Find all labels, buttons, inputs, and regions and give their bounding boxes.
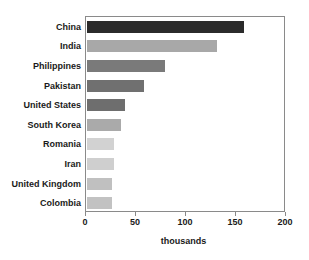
- bar-category-label: India: [60, 42, 81, 51]
- x-axis-title-text: thousands: [161, 237, 207, 246]
- bar: [87, 21, 244, 33]
- bar-row: South Korea: [86, 115, 284, 135]
- bar-row: Romania: [86, 135, 284, 155]
- x-axis-tick-label: 150: [227, 218, 242, 227]
- bar-category-label: South Korea: [27, 120, 81, 129]
- bar-row: India: [86, 37, 284, 57]
- bar-category-label: China: [56, 22, 81, 31]
- bar-row: United Kingdom: [86, 174, 284, 194]
- bar-row: China: [86, 17, 284, 37]
- bar-category-label: Colombia: [40, 199, 81, 208]
- bar: [87, 119, 121, 131]
- bar-category-label: Iran: [64, 159, 81, 168]
- bar-row: United States: [86, 95, 284, 115]
- bar-category-label: Romania: [43, 140, 81, 149]
- bar-row: Iran: [86, 154, 284, 174]
- bar-category-label: United Kingdom: [12, 179, 82, 188]
- plot-area: ChinaIndiaPhilippinesPakistanUnited Stat…: [85, 16, 285, 212]
- x-axis-tick-label: 100: [177, 218, 192, 227]
- x-axis-tick-label: 50: [130, 218, 140, 227]
- bar: [87, 158, 114, 170]
- bar-row: Pakistan: [86, 76, 284, 96]
- x-axis-tick: [185, 212, 186, 216]
- bar-chart: ChinaIndiaPhilippinesPakistanUnited Stat…: [0, 0, 309, 260]
- bar-category-label: United States: [23, 101, 81, 110]
- bar: [87, 99, 125, 111]
- bar: [87, 80, 144, 92]
- x-axis-tick: [85, 212, 86, 216]
- bar-category-label: Philippines: [33, 61, 81, 70]
- x-axis-tick: [285, 212, 286, 216]
- bar: [87, 197, 112, 209]
- x-axis-tick: [235, 212, 236, 216]
- bar: [87, 138, 114, 150]
- x-axis-tick-label: 0: [82, 218, 87, 227]
- x-axis-tick-label: 200: [277, 218, 292, 227]
- x-axis-title: thousands: [0, 237, 309, 246]
- x-axis-tick: [135, 212, 136, 216]
- bar: [87, 40, 217, 52]
- bar-category-label: Pakistan: [44, 81, 81, 90]
- bar-row: Philippines: [86, 56, 284, 76]
- bar-row: Colombia: [86, 193, 284, 213]
- bar: [87, 178, 112, 190]
- bar: [87, 60, 165, 72]
